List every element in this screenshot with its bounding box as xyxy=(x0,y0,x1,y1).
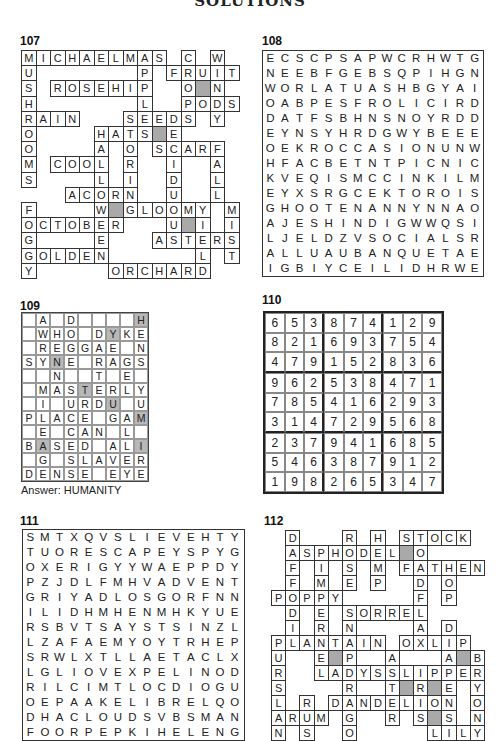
letter: Y xyxy=(169,545,184,560)
letter: P xyxy=(227,635,242,650)
letter: R xyxy=(321,186,336,201)
letter-cell: E xyxy=(152,111,168,127)
letter: N xyxy=(213,590,228,605)
letter: I xyxy=(438,96,453,111)
letter: S xyxy=(380,66,395,81)
letter: L xyxy=(292,246,307,261)
letter-cell: T xyxy=(413,530,428,546)
sudoku-cell: 3 xyxy=(285,433,305,453)
letter-cell: I xyxy=(441,635,456,651)
letter: Q xyxy=(394,246,409,261)
letter: N xyxy=(140,605,155,620)
letter-cell: R xyxy=(195,141,211,157)
letter: U xyxy=(351,81,366,96)
letter: A xyxy=(81,695,96,710)
letter-cell: I xyxy=(210,65,226,81)
letter: M xyxy=(111,575,126,590)
letter: H xyxy=(198,635,213,650)
letter: B xyxy=(169,710,184,725)
letter: A xyxy=(140,650,155,665)
grid-cell xyxy=(120,341,134,355)
letter: E xyxy=(125,605,140,620)
letter: I xyxy=(409,231,424,246)
grid-cell: O xyxy=(64,327,78,341)
grid-cell: A xyxy=(92,341,106,355)
letter: N xyxy=(351,201,366,216)
letter: N xyxy=(453,141,468,156)
letter-cell: D xyxy=(195,263,211,279)
letter-cell: N xyxy=(94,248,110,264)
wordsearch-row: GRIYADLOSGORFNN xyxy=(23,590,244,605)
letter-cell: A xyxy=(271,710,286,726)
grid-cell xyxy=(22,369,36,383)
letter-cell: G xyxy=(342,710,357,726)
letter-cell: R xyxy=(181,65,197,81)
grid-cell: K xyxy=(120,327,134,341)
puzzle-110-sudoku: 6538741298216937544791528369625384717854… xyxy=(263,311,444,494)
letter: N xyxy=(213,575,228,590)
letter: I xyxy=(23,605,38,620)
shaded-cell xyxy=(328,650,343,666)
letter-cell: O xyxy=(470,695,485,711)
letter-cell: M xyxy=(21,156,37,172)
letter: S xyxy=(336,51,351,66)
letter-cell: U xyxy=(166,187,182,203)
letter: N xyxy=(198,665,213,680)
wordsearch-row: IGBIYCEILIDHRWE xyxy=(263,261,483,276)
letter-cell: R xyxy=(413,680,428,696)
letter: C xyxy=(111,545,126,560)
letter-cell: F xyxy=(210,141,226,157)
letter: I xyxy=(184,665,199,680)
letter: E xyxy=(213,635,228,650)
letter-cell: U xyxy=(299,710,314,726)
letter: T xyxy=(169,650,184,665)
letter: Q xyxy=(213,695,228,710)
letter: Z xyxy=(213,620,228,635)
letter: N xyxy=(292,126,307,141)
grid-cell: E xyxy=(36,425,50,439)
letter-cell: A xyxy=(210,156,226,172)
letter: E xyxy=(365,186,380,201)
letter: S xyxy=(184,545,199,560)
letter: H xyxy=(424,51,439,66)
letter-cell: R xyxy=(285,710,300,726)
grid-cell xyxy=(50,425,64,439)
letter: L xyxy=(38,605,53,620)
sudoku-cell: 1 xyxy=(344,393,364,413)
letter-cell: A xyxy=(137,50,153,66)
letter: R xyxy=(307,141,322,156)
letter: A xyxy=(351,51,366,66)
letter: L xyxy=(52,665,67,680)
letter: A xyxy=(263,216,278,231)
letter: M xyxy=(351,171,366,186)
letter: G xyxy=(424,81,439,96)
letter: K xyxy=(292,141,307,156)
sudoku-cell: 6 xyxy=(363,393,383,413)
letter-cell: F xyxy=(285,560,300,576)
letter: D xyxy=(23,710,38,725)
letter-cell: G xyxy=(21,232,37,248)
letter-cell: U xyxy=(271,650,286,666)
letter-cell: T xyxy=(224,65,240,81)
letter: L xyxy=(111,650,126,665)
letter: E xyxy=(292,231,307,246)
letter: K xyxy=(96,695,111,710)
letter: W xyxy=(394,126,409,141)
letter: N xyxy=(438,201,453,216)
letter-cell: D xyxy=(370,695,385,711)
letter: E xyxy=(52,560,67,575)
letter: O xyxy=(52,545,67,560)
letter: Q xyxy=(438,216,453,231)
letter: A xyxy=(365,81,380,96)
grid-cell: N xyxy=(134,341,148,355)
letter-cell: O xyxy=(21,217,37,233)
letter-cell: C xyxy=(79,187,95,203)
letter-cell: Y xyxy=(328,590,343,606)
shaded-cell xyxy=(399,545,414,561)
letter: R xyxy=(23,680,38,695)
letter-cell: A xyxy=(65,187,81,203)
letter: E xyxy=(336,201,351,216)
grid-cell: E xyxy=(78,467,92,481)
letter: A xyxy=(263,246,278,261)
letter: L xyxy=(23,665,38,680)
